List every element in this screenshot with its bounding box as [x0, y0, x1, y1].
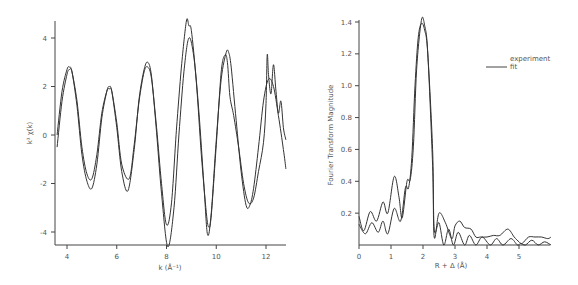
y-tick-label: 0.6 [341, 146, 353, 154]
y-tick-label: 1.2 [341, 50, 352, 58]
legend: experiment fit [486, 55, 550, 71]
legend-experiment-label: experiment [510, 55, 550, 63]
x-tick-label: 0 [357, 253, 361, 261]
x-tick-label: 1 [389, 253, 393, 261]
left-experiment-curve [57, 19, 286, 228]
right-chart: 0.20.40.60.81.01.21.4 012345 R + Δ (Å) F… [327, 17, 551, 270]
x-tick-label: 4 [65, 253, 70, 261]
figure: -4-2024 4681012 k (Å⁻¹) k³ χ(k) 0.20.40.… [0, 0, 578, 285]
y-tick-label: 0 [43, 132, 47, 140]
x-tick-label: 2 [421, 253, 425, 261]
y-tick-label: 1.0 [341, 82, 352, 90]
x-tick-label: 6 [115, 253, 120, 261]
right-y-ticks: 0.20.40.60.81.01.21.4 [341, 19, 359, 218]
y-tick-label: 2 [43, 83, 47, 91]
legend-fit-label: fit [510, 63, 517, 71]
right-experiment-curve [359, 17, 551, 244]
left-y-ticks: -4-2024 [40, 35, 55, 237]
y-tick-label: 0.2 [341, 210, 352, 218]
x-tick-label: 10 [212, 253, 221, 261]
left-fit-curve [57, 38, 286, 247]
y-tick-label: 0.4 [341, 178, 353, 186]
left-x-axis-label: k (Å⁻¹) [158, 263, 181, 272]
x-tick-label: 5 [517, 253, 521, 261]
left-x-ticks: 4681012 [65, 245, 271, 261]
right-x-axis-label: R + Δ (Å) [435, 261, 468, 270]
y-tick-label: 1.4 [341, 19, 353, 27]
x-tick-label: 8 [164, 253, 168, 261]
left-chart: -4-2024 4681012 k (Å⁻¹) k³ χ(k) [26, 19, 286, 272]
x-tick-label: 4 [485, 253, 490, 261]
right-y-axis-label: Fourier Transform Magnitude [327, 85, 335, 186]
y-tick-label: -4 [40, 229, 48, 237]
y-tick-label: 0.8 [341, 114, 352, 122]
y-tick-label: -2 [40, 180, 47, 188]
x-tick-label: 12 [262, 253, 271, 261]
left-y-axis-label: k³ χ(k) [26, 121, 34, 144]
y-tick-label: 4 [43, 35, 48, 43]
x-tick-label: 3 [453, 253, 457, 261]
right-x-ticks: 012345 [357, 245, 521, 261]
